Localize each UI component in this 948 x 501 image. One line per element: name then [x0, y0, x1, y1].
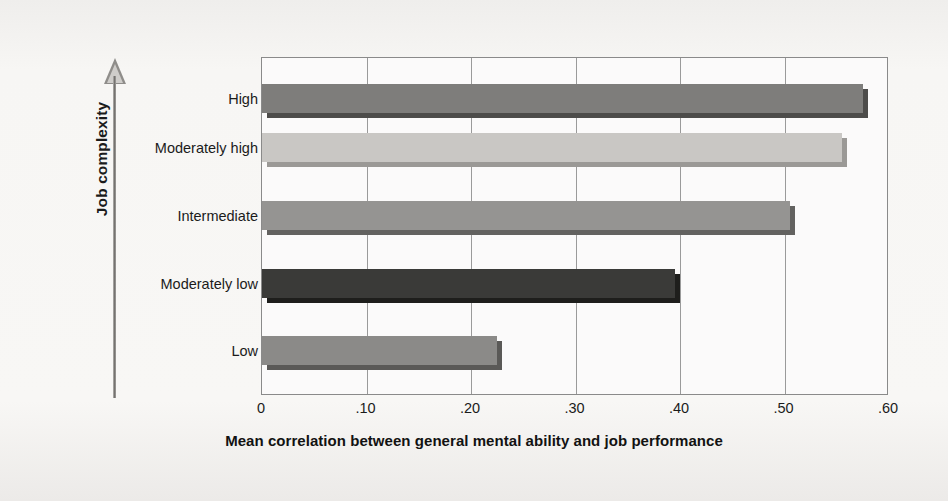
plot-area	[261, 57, 888, 395]
bar-intermediate	[262, 201, 795, 235]
y-axis-label-moderately-low: Moderately low	[18, 276, 258, 292]
x-axis-title: Mean correlation between general mental …	[0, 432, 948, 449]
bar-bottom-shadow	[267, 162, 847, 167]
x-axis-tick-p50: .50	[773, 400, 793, 416]
x-axis-tick-p30: .30	[564, 400, 584, 416]
bar-face	[262, 336, 497, 365]
y-axis-label-moderately-high: Moderately high	[18, 140, 258, 156]
bar-moderately-low	[262, 269, 680, 303]
x-axis-tick-p20: .20	[460, 400, 480, 416]
x-axis-tick-p60: .60	[878, 400, 898, 416]
bar-low	[262, 336, 502, 370]
y-axis-tick-labels: HighModerately highIntermediateModeratel…	[10, 0, 258, 501]
bar-face	[262, 269, 675, 298]
bar-high	[262, 84, 868, 118]
bar-moderately-high	[262, 133, 847, 167]
bar-bottom-shadow	[267, 230, 795, 235]
bar-face	[262, 133, 842, 162]
x-axis-tick-p40: .40	[669, 400, 689, 416]
bar-face	[262, 84, 863, 113]
y-axis-label-intermediate: Intermediate	[18, 208, 258, 224]
bar-chart-figure: Job complexity HighModerately highInterm…	[0, 0, 948, 501]
bar-bottom-shadow	[267, 113, 868, 118]
x-axis-tick-labels: 0.10.20.30.40.50.60	[0, 400, 948, 424]
bar-bottom-shadow	[267, 298, 680, 303]
bar-face	[262, 201, 790, 230]
bar-bottom-shadow	[267, 365, 502, 370]
x-axis-tick-p10: .10	[355, 400, 375, 416]
y-axis-label-high: High	[18, 91, 258, 107]
x-axis-tick-0: 0	[257, 400, 265, 416]
y-axis-label-low: Low	[18, 343, 258, 359]
